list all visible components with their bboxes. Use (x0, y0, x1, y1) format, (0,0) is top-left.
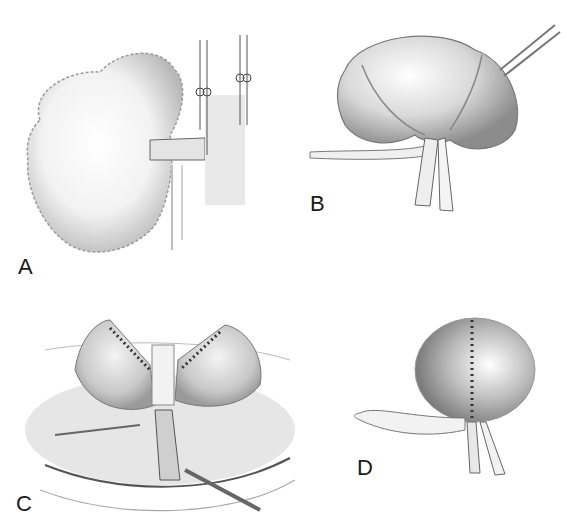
panel-a: A (0, 0, 290, 290)
panel-b: B (290, 0, 567, 260)
panel-c: C (0, 290, 310, 526)
panel-a-illustration (0, 0, 290, 290)
panel-label-d: D (357, 457, 373, 479)
panel-d-illustration (320, 290, 567, 526)
panel-d: D (320, 290, 567, 526)
panel-c-illustration (0, 290, 310, 526)
panel-b-illustration (290, 0, 567, 260)
panel-label-a: A (18, 256, 33, 278)
panel-label-b: B (310, 193, 325, 215)
panel-label-c: C (16, 493, 32, 515)
